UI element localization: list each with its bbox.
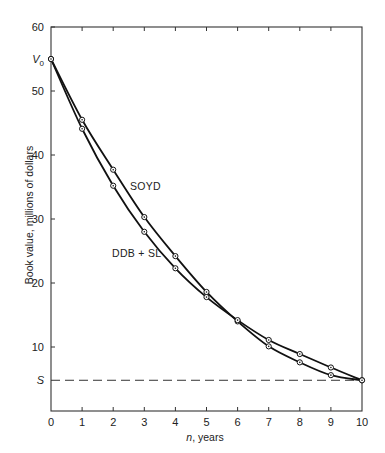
y-tick-label: 50 (32, 85, 44, 97)
soyd-data-point-dot (299, 362, 301, 364)
y-axis-title: Book value, millions of dollars (23, 146, 35, 284)
ddb-sl-data-point-dot (175, 267, 177, 269)
series-labels: SOYDDDB + SL (112, 180, 161, 259)
ddb-sl-data-point-dot (237, 319, 239, 321)
x-tick-label: 0 (48, 416, 54, 428)
soyd-data-point-dot (81, 119, 83, 121)
y-tick-label: 10 (32, 341, 44, 353)
soyd-data-point-dot (175, 255, 177, 257)
soyd-label: SOYD (130, 180, 161, 192)
soyd-data-point-dot (330, 374, 332, 376)
ddb-sl-data-point-dot (50, 58, 52, 60)
ddb-sl-data-point-dot (81, 128, 83, 130)
ddb-sl-data-point-dot (268, 339, 270, 341)
x-axis-ticks: 012345678910 (48, 27, 368, 428)
soyd-data-point-dot (206, 291, 208, 293)
ddb-sl-data-point-dot (144, 231, 146, 233)
y-tick-label: 60 (32, 21, 44, 33)
x-tick-label: 9 (328, 416, 334, 428)
ddb-sl-data-point-dot (361, 379, 363, 381)
x-tick-label: 5 (203, 416, 209, 428)
plot-border (51, 27, 362, 411)
x-tick-label: 3 (141, 416, 147, 428)
x-tick-label: 7 (266, 416, 272, 428)
soyd-curve (51, 59, 362, 380)
soyd-data-point-dot (268, 346, 270, 348)
x-tick-label: 8 (297, 416, 303, 428)
soyd-data-point-dot (144, 216, 146, 218)
series-lines (48, 56, 364, 382)
s-label: S (37, 374, 45, 386)
x-tick-label: 4 (172, 416, 178, 428)
x-tick-label: 2 (110, 416, 116, 428)
v0-label: V0 (32, 53, 44, 68)
soyd-data-point-dot (112, 169, 114, 171)
x-tick-label: 1 (79, 416, 85, 428)
ddb-sl-data-point-dot (206, 296, 208, 298)
x-tick-label: 6 (235, 416, 241, 428)
depreciation-chart: 102030405060V0S 012345678910 SOYDDDB + S… (0, 0, 385, 453)
ddb-sl-data-point-dot (299, 353, 301, 355)
ddb-sl-label: DDB + SL (112, 247, 161, 259)
x-axis-title-unit: , years (192, 431, 224, 443)
x-axis-title: n, years (186, 431, 223, 443)
ddb-sl-data-point-dot (112, 185, 114, 187)
plot-frame (51, 27, 362, 411)
ddb-sl-data-point-dot (330, 367, 332, 369)
x-tick-label: 10 (356, 416, 368, 428)
ddb-sl-curve (51, 59, 362, 380)
